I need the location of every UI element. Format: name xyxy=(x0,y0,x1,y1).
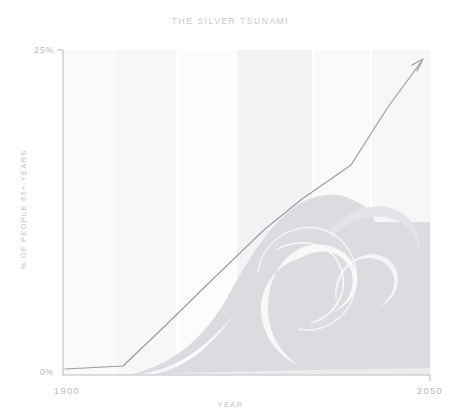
y-axis-title: % OF PEOPLE 65+ YEARS xyxy=(19,150,28,270)
y-axis-tick-label-min: 0% xyxy=(22,367,54,377)
plot-area xyxy=(0,0,461,420)
y-axis-tick-label-max: 25% xyxy=(22,45,54,55)
chart-figure: THE SILVER TSUNAMI xyxy=(0,0,461,420)
x-axis-tick-label-start: 1900 xyxy=(47,385,87,396)
background-band xyxy=(63,50,114,375)
x-axis-tick-label-end: 2050 xyxy=(409,385,451,396)
background-band xyxy=(115,50,176,375)
x-axis-title: YEAR xyxy=(0,400,461,409)
